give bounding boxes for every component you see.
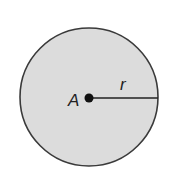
- circle-diagram: A r: [0, 0, 181, 182]
- center-point: [85, 94, 94, 103]
- center-label: A: [67, 91, 79, 110]
